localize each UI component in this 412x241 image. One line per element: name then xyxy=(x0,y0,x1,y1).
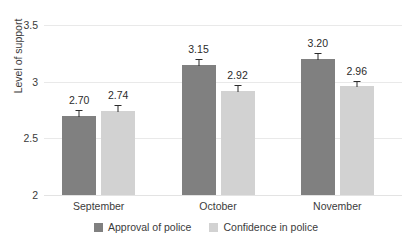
error-bar xyxy=(198,59,199,66)
bar xyxy=(221,91,255,195)
x-axis-category-label: November xyxy=(313,200,361,212)
bar xyxy=(301,59,335,195)
bar-value-label: 3.20 xyxy=(308,37,328,49)
bar-value-label: 2.92 xyxy=(227,69,247,81)
bar-value-label: 3.15 xyxy=(188,43,208,55)
error-bar-cap xyxy=(234,85,241,86)
y-axis-tick-labels: 3.532.52 xyxy=(0,0,38,241)
bar xyxy=(62,116,96,195)
bar-value-label: 2.96 xyxy=(347,65,367,77)
gridline xyxy=(44,82,402,83)
plot-area: 2.702.743.152.923.202.96 xyxy=(44,25,402,195)
bar xyxy=(340,86,374,195)
y-axis-tick-label: 3 xyxy=(32,76,38,88)
gridline xyxy=(44,195,402,196)
x-axis-category-label: October xyxy=(199,200,236,212)
error-bar-cap xyxy=(195,59,202,60)
error-bar xyxy=(118,105,119,112)
error-bar xyxy=(317,53,318,60)
legend-label: Confidence in police xyxy=(223,221,318,233)
legend-label: Approval of police xyxy=(108,221,191,233)
error-bar xyxy=(356,81,357,88)
error-bar-cap xyxy=(314,53,321,54)
legend: Approval of policeConfidence in police xyxy=(0,221,412,233)
bar-value-label: 2.74 xyxy=(108,89,128,101)
bar-value-label: 2.70 xyxy=(69,94,89,106)
y-axis-tick-label: 2 xyxy=(32,189,38,201)
legend-swatch-icon xyxy=(209,223,218,232)
bar-chart: Level of support 3.532.52 2.702.743.152.… xyxy=(0,0,412,241)
x-axis-category-label: September xyxy=(73,200,124,212)
error-bar xyxy=(237,85,238,92)
y-axis-tick-label: 3.5 xyxy=(23,19,38,31)
legend-item[interactable]: Approval of police xyxy=(94,221,191,233)
error-bar-cap xyxy=(76,110,83,111)
legend-swatch-icon xyxy=(94,223,103,232)
error-bar-cap xyxy=(353,81,360,82)
y-axis-tick-label: 2.5 xyxy=(23,132,38,144)
bar xyxy=(182,65,216,195)
error-bar xyxy=(79,110,80,117)
gridline xyxy=(44,25,402,26)
bar xyxy=(101,111,135,195)
legend-item[interactable]: Confidence in police xyxy=(209,221,318,233)
error-bar-cap xyxy=(115,105,122,106)
